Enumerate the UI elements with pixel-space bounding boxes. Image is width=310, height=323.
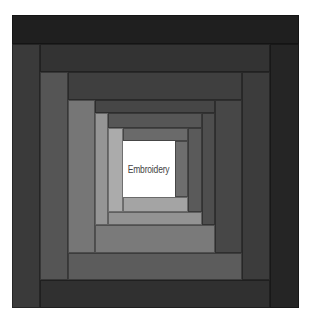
quilt-strip-ring3-top bbox=[68, 72, 242, 100]
quilt-strip-ring2-top bbox=[40, 44, 270, 72]
quilt-strip-ring3-left bbox=[68, 100, 95, 253]
quilt-strip-ring1-bottom bbox=[40, 280, 270, 308]
quilt-strip-ring1-top bbox=[12, 15, 299, 44]
quilt-strip-ring5-top bbox=[108, 113, 202, 128]
quilt-strip-ring6-top bbox=[123, 128, 188, 141]
log-cabin-quilt: Embroidery bbox=[0, 0, 310, 323]
quilt-strip-ring2-left bbox=[40, 72, 68, 280]
quilt-strip-ring3-right bbox=[215, 100, 242, 253]
quilt-strip-ring5-right bbox=[188, 128, 202, 212]
quilt-strip-ring5-left bbox=[108, 128, 123, 212]
quilt-strip-ring4-right bbox=[202, 113, 215, 225]
quilt-strip-ring3-bottom bbox=[95, 225, 215, 253]
quilt-strip-ring4-left bbox=[95, 113, 108, 225]
quilt-strip-ring4-top bbox=[95, 100, 215, 113]
quilt-strip-ring5-bottom bbox=[123, 197, 188, 212]
center-label: Embroidery bbox=[128, 164, 170, 175]
quilt-strip-ring6-right bbox=[175, 141, 188, 197]
quilt-strip-ring1-right bbox=[270, 44, 299, 308]
quilt-strip-ring2-right bbox=[242, 72, 270, 280]
quilt-center-panel: Embroidery bbox=[123, 141, 175, 197]
quilt-strip-ring2-bottom bbox=[68, 253, 242, 280]
quilt-strip-ring1-left bbox=[12, 44, 40, 308]
quilt-strip-ring4-bottom bbox=[108, 212, 202, 225]
